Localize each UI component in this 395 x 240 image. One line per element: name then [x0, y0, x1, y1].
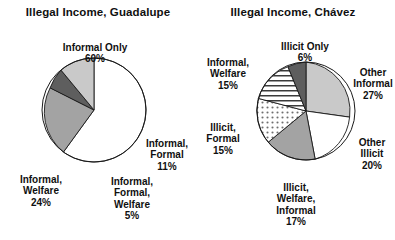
label-illicit-only-pct: 6% — [257, 52, 353, 64]
label-other-illicit-text: Other Illicit — [359, 137, 386, 160]
label-illicit-only: Illicit Only 6% — [257, 29, 353, 75]
label-other-informal: Other Informal 27% — [351, 55, 395, 113]
label-illicit-only-text: Illicit Only — [281, 41, 329, 52]
label-other-informal-pct: 27% — [351, 90, 395, 102]
label-informal-formal-welfare-text: Informal, Formal, Welfare — [111, 176, 153, 210]
label-informal-formal-welfare: Informal, Formal, Welfare 5% — [101, 164, 163, 234]
label-informal-welfare-pct: 24% — [6, 197, 76, 209]
label-informal-formal-welfare-pct: 5% — [101, 210, 163, 222]
pie-chart-guadalupe: Illegal Income, Guadalupe Informal Only … — [0, 0, 196, 224]
label-informal-formal-text: Informal, Formal — [146, 138, 188, 161]
label-illicit-formal-pct: 15% — [199, 145, 247, 157]
label-illicit-welfare-informal-pct: 17% — [263, 216, 329, 228]
label-informal-welfare-text: Informal, Welfare — [20, 174, 62, 197]
label-illicit-formal-text: Illicit, Formal — [206, 122, 239, 145]
label-illicit-formal: Illicit, Formal 15% — [199, 110, 247, 168]
label-other-illicit-pct: 20% — [351, 160, 393, 172]
label-other-informal-text: Other Informal — [353, 67, 392, 90]
label-informal-only-text: Informal Only — [63, 42, 127, 53]
label-other-illicit: Other Illicit 20% — [351, 125, 393, 183]
label-illicit-welfare-informal: Illicit, Welfare, Informal 17% — [263, 170, 329, 240]
label-informal-welfare: Informal, Welfare 24% — [6, 162, 76, 220]
label-informal-only: Informal Only 60% — [42, 30, 148, 76]
label-informal-welfare-right-text: Informal, Welfare — [207, 57, 249, 80]
label-informal-welfare-right: Informal, Welfare 15% — [199, 45, 257, 103]
label-informal-welfare-right-pct: 15% — [199, 80, 257, 92]
pie-chart-chavez: Illegal Income, Chávez — [195, 0, 391, 224]
label-illicit-welfare-informal-text: Illicit, Welfare, Informal — [276, 182, 315, 216]
label-informal-only-pct: 60% — [42, 53, 148, 65]
